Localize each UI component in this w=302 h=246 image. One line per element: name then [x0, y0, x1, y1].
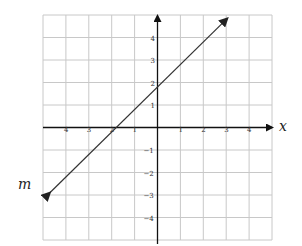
line-m-label: m [18, 176, 31, 192]
x-tick-label: 4 [64, 126, 69, 134]
x-tick-label: 1 [133, 126, 137, 134]
x-tick-label: 3 [87, 126, 91, 134]
y-tick-label: 1 [151, 102, 155, 110]
y-tick-label: −4 [144, 215, 155, 223]
x-tick-label: 4 [247, 126, 252, 134]
coordinate-graph: 432112344321−1−2−3−4 x m [0, 0, 302, 246]
line-m [50, 18, 227, 192]
y-tick-label: −2 [144, 170, 154, 178]
y-tick-label: −1 [144, 147, 154, 155]
x-tick-label: 1 [178, 126, 182, 134]
x-tick-label: 2 [201, 126, 205, 134]
x-axis-label: x [279, 118, 287, 134]
y-tick-label: 2 [151, 80, 155, 88]
y-tick-label: 3 [151, 57, 155, 65]
x-tick-label: 3 [224, 126, 228, 134]
y-tick-label: 4 [151, 35, 156, 43]
axes [43, 16, 272, 244]
y-tick-label: −3 [144, 192, 154, 200]
